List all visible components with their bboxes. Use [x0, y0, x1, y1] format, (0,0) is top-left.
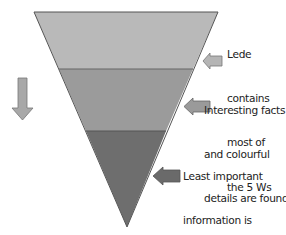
down-arrow-icon [12, 78, 33, 120]
pyramid-section-lede [34, 12, 218, 69]
left-arrow-icon-lede [203, 53, 222, 69]
caption-line: Interesting facts [204, 103, 286, 118]
pyramid-section-body [59, 69, 193, 131]
caption-line: Least important [183, 169, 263, 184]
left-arrow-icon-tail [153, 167, 180, 185]
tail-caption: Least important information is found her… [183, 139, 263, 235]
caption-line: information is [183, 213, 263, 228]
pyramid-section-tail [86, 131, 166, 227]
caption-line: Lede [227, 47, 271, 62]
